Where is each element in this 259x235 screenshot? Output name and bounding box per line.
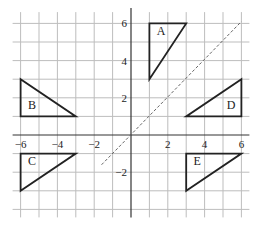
x-tick-label: 4 bbox=[202, 138, 208, 150]
triangle-label-d: D bbox=[227, 98, 236, 112]
triangle-label-c: C bbox=[28, 154, 36, 168]
triangle-label-b: B bbox=[28, 98, 36, 112]
x-tick-label: 2 bbox=[165, 138, 171, 150]
coordinate-grid: −6−4−2246642−2ABCDE bbox=[0, 0, 259, 235]
triangle-label-a: A bbox=[157, 24, 166, 38]
y-tick-label: 4 bbox=[122, 55, 128, 67]
x-tick-label: −6 bbox=[15, 138, 27, 150]
coordinate-diagram: −6−4−2246642−2ABCDE bbox=[0, 0, 259, 235]
y-tick-label: 2 bbox=[122, 92, 128, 104]
x-tick-label: −2 bbox=[88, 138, 100, 150]
x-tick-label: −4 bbox=[52, 138, 64, 150]
triangle-label-e: E bbox=[194, 154, 201, 168]
y-tick-label: −2 bbox=[115, 166, 127, 178]
y-tick-label: 6 bbox=[122, 17, 128, 29]
x-tick-label: 6 bbox=[239, 138, 245, 150]
